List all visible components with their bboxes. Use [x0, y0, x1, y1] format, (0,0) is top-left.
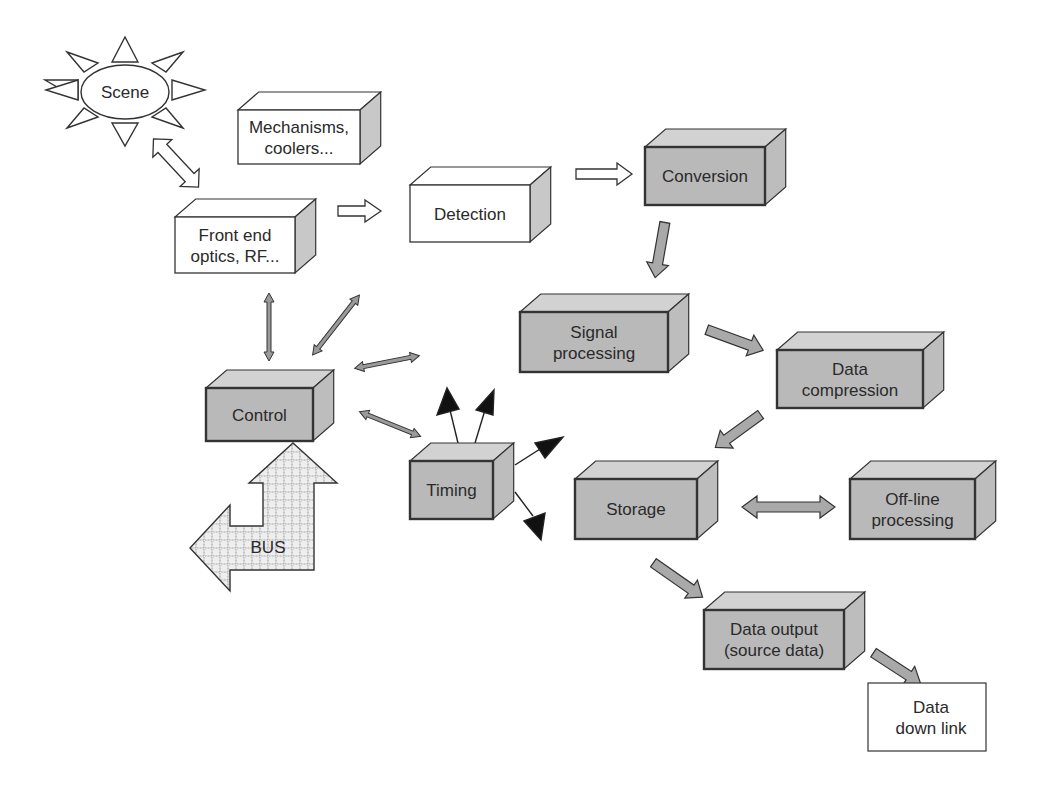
bus-label: BUS [251, 538, 286, 557]
block-label: coolers... [265, 139, 334, 158]
block-top-face [645, 129, 786, 147]
box-data-down-link: Datadown link [868, 683, 986, 751]
block-top-face [850, 461, 996, 479]
block-front-face [520, 312, 668, 372]
block-top-face [175, 199, 316, 217]
box-label: down link [896, 719, 967, 738]
block-control: Control [206, 370, 334, 441]
block-label: processing [553, 344, 635, 363]
detection-conversion-arrow [576, 163, 632, 185]
block-top-face [206, 370, 334, 388]
block-conversion: Conversion [645, 129, 786, 205]
block-top-face [410, 167, 551, 185]
block-label: Mechanisms, [249, 118, 349, 137]
control-detection-arrow [309, 292, 364, 358]
block-data-output: Data output(source data) [704, 592, 865, 669]
conversion-signal-arrow [644, 221, 675, 280]
block-label: Timing [426, 481, 476, 500]
control-frontend-arrow [264, 293, 274, 361]
block-label: Data [832, 360, 868, 379]
block-label: processing [871, 511, 953, 530]
storage-offline-double-arrow [742, 496, 835, 518]
scene-label: Scene [101, 83, 149, 102]
block-top-face [777, 332, 944, 350]
block-top-face [575, 461, 718, 479]
block-label: Signal [570, 323, 617, 342]
bus-arrow-icon [190, 443, 337, 591]
block-label: (source data) [724, 641, 824, 660]
block-label: Conversion [662, 167, 748, 186]
block-timing: Timing [410, 443, 514, 519]
block-top-face [520, 294, 689, 312]
block-label: Off-line [885, 490, 940, 509]
compression-storage-arrow [709, 406, 767, 457]
block-label: compression [802, 381, 898, 400]
system-diagram: Scene BUS Mechan [0, 0, 1040, 787]
block-front-end: Front endoptics, RF... [175, 199, 316, 273]
box-label: Data [913, 698, 949, 717]
block-top-face [704, 592, 865, 610]
block-detection: Detection [410, 167, 551, 242]
frontend-detection-arrow [338, 200, 381, 222]
scene-frontend-double-arrow [144, 130, 208, 196]
block-offline-processing: Off-lineprocessing [850, 461, 996, 539]
block-data-compression: Datacompression [777, 332, 944, 408]
block-mechanisms: Mechanisms,coolers... [238, 92, 381, 164]
block-front-face [704, 610, 844, 669]
block-signal-processing: Signalprocessing [520, 294, 689, 372]
control-signal-arrow [354, 351, 421, 373]
block-label: optics, RF... [191, 247, 280, 266]
block-front-face [850, 479, 975, 539]
signal-compression-arrow [703, 319, 767, 360]
block-label: Detection [434, 205, 506, 224]
control-timing-arrow [358, 407, 423, 441]
block-label: Control [232, 406, 287, 425]
storage-dataoutput-arrow [647, 554, 709, 606]
block-label: Front end [199, 226, 272, 245]
block-storage: Storage [575, 461, 718, 539]
block-label: Storage [606, 500, 666, 519]
block-top-face [238, 92, 381, 110]
block-label: Data output [730, 620, 818, 639]
